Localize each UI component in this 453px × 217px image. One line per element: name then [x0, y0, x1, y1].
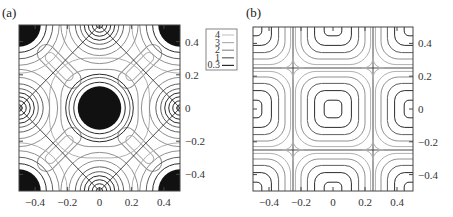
x-tick-label: 0	[97, 196, 103, 208]
y-tick-label: −0.4	[185, 168, 205, 180]
panel-b-frame	[253, 27, 413, 191]
y-tick-label: 0.2	[418, 70, 432, 82]
contour-line	[315, 91, 352, 128]
y-tick-label: 0.4	[185, 36, 199, 48]
y-tick-label: −0.2	[185, 135, 205, 147]
contour-line	[295, 71, 370, 146]
figure: (a) −0.4−0.200.20.40.40.20−0.2−0.4 43210…	[0, 0, 453, 217]
x-tick-label: −0.4	[259, 196, 279, 208]
y-tick-label: 0	[185, 102, 191, 114]
x-tick-label: 0.4	[390, 196, 404, 208]
x-tick-label: −0.4	[25, 196, 45, 208]
contour-line	[301, 77, 365, 141]
legend: 43210.3	[206, 29, 237, 70]
x-tick-label: 0.4	[157, 196, 171, 208]
y-tick-label: 0.2	[185, 69, 199, 81]
panel-b-contours	[215, 0, 450, 217]
x-tick-label: 0.2	[358, 196, 372, 208]
y-tick-label: 0.4	[418, 37, 432, 49]
y-tick-label: −0.4	[418, 169, 438, 181]
panel-a: (a) −0.4−0.200.20.40.40.20−0.2−0.4	[0, 0, 228, 217]
panel-b: (b) −0.4−0.200.20.40.40.20−0.2−0.4	[215, 0, 450, 217]
x-tick-label: 0	[330, 196, 336, 208]
panel-b-label: (b)	[246, 5, 261, 20]
y-tick-label: 0	[418, 103, 424, 115]
contour-line	[0, 77, 50, 138]
contour-line	[0, 69, 58, 146]
x-tick-label: −0.2	[57, 196, 77, 208]
x-tick-label: 0.2	[125, 196, 139, 208]
x-tick-label: −0.2	[291, 196, 311, 208]
panel-a-contours	[0, 0, 228, 217]
filled-region	[78, 86, 121, 129]
panel-a-label: (a)	[2, 5, 16, 20]
y-tick-label: −0.2	[418, 136, 438, 148]
legend-label: 0.3	[208, 59, 221, 70]
contour-line	[324, 100, 342, 118]
